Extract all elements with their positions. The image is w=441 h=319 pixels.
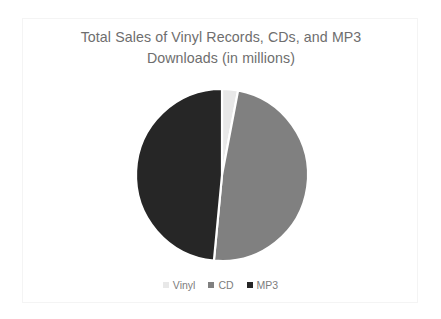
- legend-swatch-cd-icon: [208, 282, 214, 288]
- legend-label-cd: CD: [218, 279, 233, 291]
- legend-item-vinyl[interactable]: Vinyl: [163, 279, 196, 291]
- legend-item-mp3[interactable]: MP3: [247, 279, 279, 291]
- legend-swatch-mp3-icon: [247, 282, 253, 288]
- legend-label-vinyl: Vinyl: [173, 279, 196, 291]
- pie-chart: Total Sales of Vinyl Records, CDs, and M…: [0, 0, 441, 319]
- chart-title-line-2: Downloads (in millions): [46, 48, 396, 69]
- pie-slices: [136, 89, 308, 261]
- legend-swatch-vinyl-icon: [163, 282, 169, 288]
- pie-plot-area: [136, 89, 308, 261]
- chart-title: Total Sales of Vinyl Records, CDs, and M…: [46, 27, 396, 69]
- pie-svg: [136, 89, 308, 261]
- chart-title-line-1: Total Sales of Vinyl Records, CDs, and M…: [46, 27, 396, 48]
- chart-legend: Vinyl CD MP3: [0, 279, 441, 291]
- pie-slice-mp3[interactable]: [136, 89, 222, 261]
- legend-label-mp3: MP3: [257, 279, 279, 291]
- legend-item-cd[interactable]: CD: [208, 279, 233, 291]
